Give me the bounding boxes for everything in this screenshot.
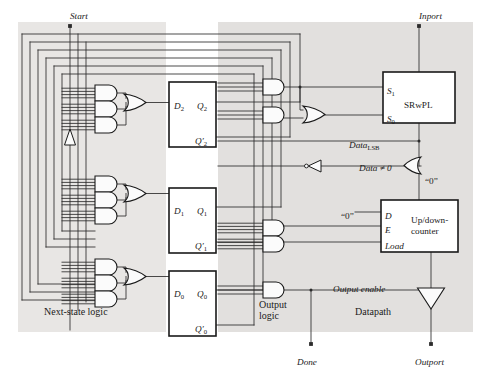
figure-canvas: StartInportDoneOutportD2Q2Q′2D1Q1Q′1D0Q0… (0, 0, 481, 375)
and-gate-out-and-e (263, 220, 284, 236)
port-label-done: Done (297, 358, 317, 367)
and-gate-out-and-load (263, 236, 284, 252)
signal-label-const-zero-d: “0” (341, 212, 354, 221)
block-ff1 (169, 188, 216, 253)
pin-label-ff2-1: Q2 (197, 102, 207, 112)
and-gate-ns-logic-0-1 (95, 275, 117, 291)
pin-label-ff0-2: Q′0 (195, 325, 207, 336)
pin-label-updown-counter-2: Load (385, 242, 404, 251)
and-gate-out-and-s0a (263, 107, 284, 123)
block-label-updown-counter-0: Up/down- (411, 216, 448, 225)
pin-label-ff1-0: D1 (174, 207, 184, 217)
block-ff2 (169, 82, 216, 147)
and-gate-ns-logic-0-0 (95, 259, 117, 275)
port-label-inport: Inport (419, 12, 442, 21)
pin-label-ff2-0: D2 (174, 102, 184, 112)
pin-label-ff0-1: Q0 (197, 290, 207, 300)
pin-label-ff1-2: Q′1 (195, 242, 207, 253)
inverter-bubble-icon (305, 164, 309, 168)
junction-dot (299, 86, 302, 89)
region-label-logic: logic (259, 311, 279, 321)
and-gate-ns-logic-1-1 (95, 192, 117, 208)
terminal-inport (417, 24, 421, 28)
and-gate-out-and-s1 (263, 79, 284, 95)
terminal-done (309, 342, 313, 346)
signal-label-const-zero-or: “0” (425, 177, 438, 186)
pin-label-ff1-1: Q1 (197, 207, 207, 217)
and-gate-ns-logic-1-2 (95, 208, 117, 224)
pin-label-srwpl-1: S0 (387, 115, 395, 125)
signal-label-output-enable: Output enable (333, 285, 385, 294)
port-label-outport: Outport (415, 358, 444, 367)
pin-label-updown-counter-0: D (385, 212, 392, 221)
circuit-diagram-svg (0, 0, 481, 375)
junction-dot (418, 140, 421, 143)
junction-dot (310, 289, 313, 292)
terminal-start (68, 24, 72, 28)
and-gate-ns-logic-2-1 (95, 101, 117, 117)
and-gate-ns-logic-2-2 (95, 117, 117, 133)
port-label-start: Start (70, 12, 88, 21)
and-gate-ns-logic-1-0 (95, 176, 117, 192)
region-label-output: Output (259, 300, 287, 310)
pin-label-updown-counter-1: E (385, 226, 391, 235)
block-ff0 (169, 271, 216, 336)
and-gate-out-and-oe (263, 282, 284, 298)
and-gate-ns-logic-0-2 (95, 291, 117, 307)
signal-label-data-lsb: DataLSB (349, 141, 380, 151)
block-label-srwpl: SRwPL (404, 101, 433, 110)
region-label-next-state-logic: Next-state logic (44, 307, 108, 317)
region-label-datapath: Datapath (355, 307, 391, 317)
and-gate-ns-logic-2-0 (95, 85, 117, 101)
block-label-updown-counter-1: counter (411, 227, 439, 236)
signal-label-data-nonzero: Data ≠ 0 (359, 164, 392, 173)
pin-label-ff0-0: D0 (174, 290, 184, 300)
region-next-state-logic (18, 22, 166, 332)
pin-label-srwpl-0: S1 (387, 87, 395, 97)
terminal-outport (429, 342, 433, 346)
pin-label-ff2-2: Q′2 (195, 137, 207, 148)
